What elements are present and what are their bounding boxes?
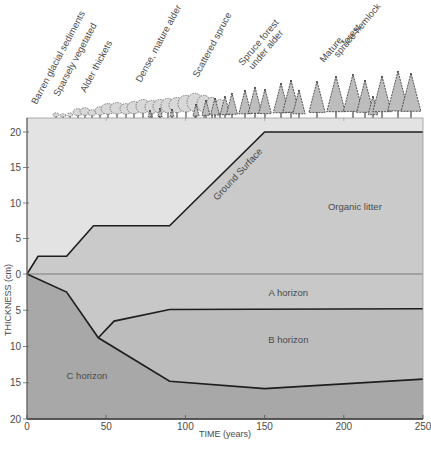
y-tick-label: 5 (15, 305, 21, 316)
soil-profile-chart: Barren glacial sedimentsSparsely vegetat… (0, 0, 431, 449)
deciduous-tree-icon (60, 114, 66, 117)
deciduous-tree-icon (53, 113, 59, 117)
deciduous-tree-icon (68, 113, 73, 117)
y-tick-label: 5 (15, 233, 21, 244)
spruce-tree-icon (401, 73, 421, 111)
spruce-tree-icon (259, 89, 272, 114)
stage-label: Dense, mature alder (133, 3, 183, 84)
y-tick-label: 15 (10, 377, 22, 388)
a-horizon-label: A horizon (269, 287, 309, 298)
x-axis-title: TIME (years) (199, 429, 251, 439)
x-tick-label: 150 (256, 421, 273, 432)
y-axis-title: THICKNESS (cm) (3, 264, 13, 336)
succession-stage-labels: Barren glacial sedimentsSparsely vegetat… (29, 1, 383, 106)
y-tick-label: 15 (10, 162, 22, 173)
y-tick-label: 10 (10, 341, 22, 352)
x-tick-label: 0 (24, 421, 30, 432)
x-tick-label: 50 (101, 421, 113, 432)
spruce-tree-icon (227, 93, 238, 114)
soil-development-diagram: Barren glacial sedimentsSparsely vegetat… (0, 0, 431, 449)
vegetation-illustration (53, 71, 421, 118)
stage-label: Scattered spruce (190, 10, 233, 79)
y-tick-label: 0 (15, 269, 21, 280)
b-horizon-label: B horizon (268, 334, 308, 345)
c-horizon-label: C horizon (67, 370, 108, 381)
x-tick-label: 250 (415, 421, 431, 432)
x-tick-label: 200 (335, 421, 352, 432)
y-tick-label: 20 (10, 414, 22, 425)
organic-litter-label: Organic litter (328, 201, 382, 212)
deciduous-tree-icon (88, 110, 96, 116)
y-tick-label: 20 (10, 127, 22, 138)
y-tick-label: 10 (10, 198, 22, 209)
spruce-tree-icon (309, 81, 325, 112)
spruce-tree-icon (327, 76, 345, 112)
x-tick-label: 100 (177, 421, 194, 432)
